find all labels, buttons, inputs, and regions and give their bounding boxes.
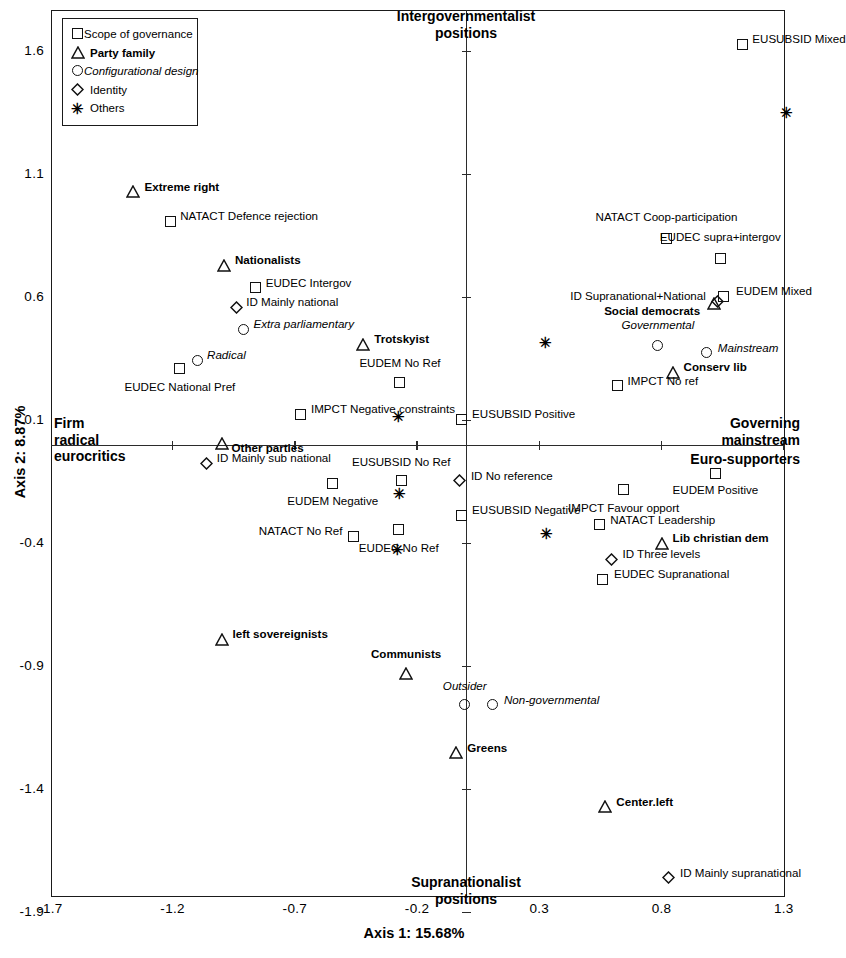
square-marker-icon — [594, 519, 605, 530]
data-point-label: Conserv lib — [684, 360, 747, 373]
data-point-label: Outsider — [443, 679, 487, 692]
square-marker-icon — [737, 39, 748, 50]
x-tick-label: 1.3 — [754, 901, 814, 916]
square-marker-icon — [612, 380, 623, 391]
y-tick-mark — [462, 51, 471, 52]
data-point-label: NATACT Coop-participation — [596, 210, 738, 223]
data-point-label: NATACT Leadership — [610, 513, 715, 526]
pole-left-line-2: radical — [54, 432, 144, 449]
data-point-label: Extra parliamentary — [254, 317, 355, 330]
legend-marker-holder — [71, 28, 84, 41]
asterisk-marker-icon: ✳ — [70, 100, 86, 118]
triangle-marker-icon — [71, 46, 85, 59]
pole-label-top: Intergovernmentalistpositions — [366, 8, 566, 41]
x-tick-label: -1.2 — [143, 901, 203, 916]
data-point-label: ID Supranational+National — [570, 289, 706, 302]
data-point-label: EUDEM Negative — [287, 494, 378, 507]
x-tick-label: -0.7 — [265, 901, 325, 916]
data-point-label: ID Three levels — [622, 547, 700, 560]
triangle-marker-icon — [598, 800, 612, 813]
square-marker-icon — [456, 414, 467, 425]
y-tick-label: 0.6 — [0, 289, 44, 304]
horizontal-axis-line — [51, 445, 785, 446]
legend: Scope of governanceParty familyConfigura… — [62, 18, 198, 126]
square-marker-icon — [715, 253, 726, 264]
square-marker-icon — [165, 216, 176, 227]
legend-label: Scope of governance — [84, 28, 193, 40]
diamond-marker-icon — [662, 871, 675, 884]
data-point-label: NATACT Defence rejection — [180, 209, 318, 222]
x-tick-mark — [172, 441, 173, 450]
asterisk-marker-icon: ✳ — [537, 334, 553, 352]
data-point-label: EUSUBSID No Ref — [352, 455, 451, 468]
data-point-label: Greens — [467, 741, 507, 754]
legend-marker — [71, 65, 84, 78]
data-point-label: ID Mainly supranational — [680, 866, 801, 879]
y-tick-mark — [462, 912, 471, 913]
data-point-label: Lib christian dem — [673, 531, 769, 544]
data-point-label: IMPCT No ref — [628, 374, 699, 387]
pole-left-line-3: eurocritics — [54, 448, 144, 465]
data-point-label: EUDEC Supranational — [614, 567, 729, 580]
pole-left-line-1: Firm — [54, 415, 144, 432]
triangle-marker-icon — [215, 437, 229, 450]
legend-marker: ✳ — [71, 102, 90, 115]
data-point-label: EUDEC supra+intergov — [660, 230, 781, 243]
diamond-marker-icon — [71, 83, 84, 96]
asterisk-marker-icon: ✳ — [539, 525, 555, 543]
square-marker-icon — [456, 510, 467, 521]
asterisk-marker-icon: ✳ — [778, 104, 794, 122]
y-tick-mark — [462, 174, 471, 175]
legend-item-diamond: Identity — [71, 81, 189, 100]
legend-marker — [71, 83, 90, 96]
legend-label: Identity — [90, 84, 127, 96]
x-tick-mark — [416, 441, 417, 450]
data-point-label: ID Mainly sub national — [217, 451, 331, 464]
y-tick-label: 1.1 — [0, 166, 44, 181]
x-axis-title: Axis 1: 15.68% — [0, 925, 828, 941]
x-tick-mark — [539, 441, 540, 450]
asterisk-marker-icon: ✳ — [390, 541, 406, 559]
triangle-marker-icon — [449, 746, 463, 759]
legend-marker-holder — [71, 46, 84, 59]
data-point-label: EUDEC Intergov — [266, 276, 352, 289]
legend-marker — [71, 28, 84, 41]
data-point-label: Nationalists — [235, 253, 301, 266]
x-tick-mark — [661, 441, 662, 450]
y-tick-mark — [462, 543, 471, 544]
triangle-marker-icon — [399, 667, 413, 680]
legend-marker-holder — [71, 65, 84, 78]
asterisk-marker-icon: ✳ — [392, 485, 408, 503]
data-point-label: Trotskyist — [374, 332, 429, 345]
data-point-label: Mainstream — [718, 341, 779, 354]
pole-label-left: Firmradicaleurocritics — [54, 415, 144, 465]
data-point-label: EUSUBSID Negative — [472, 503, 580, 516]
y-tick-mark — [462, 789, 471, 790]
legend-label: Party family — [90, 47, 155, 59]
square-marker-icon — [174, 363, 185, 374]
y-tick-mark — [462, 297, 471, 298]
data-point-label: Governmental — [622, 318, 695, 331]
square-marker-icon — [710, 468, 721, 479]
pole-top-line-1: Intergovernmentalist — [366, 8, 566, 25]
square-marker-icon — [618, 484, 629, 495]
data-point-label: EUDEM No Ref — [359, 356, 440, 369]
data-point-label: NATACT No Ref — [259, 524, 343, 537]
pole-bottom-line-2: positions — [366, 891, 566, 908]
circle-marker-icon — [192, 355, 203, 366]
y-axis-title: Axis 2: 8.87% — [12, 387, 28, 517]
pole-label-right: Governingmainstream — [700, 415, 800, 448]
square-marker-icon — [72, 28, 83, 39]
square-marker-icon — [348, 531, 359, 542]
square-marker-icon — [394, 377, 405, 388]
y-tick-label: 1.6 — [0, 43, 44, 58]
data-point-label: EUDEC National Pref — [125, 380, 236, 393]
legend-label: Others — [90, 102, 125, 114]
legend-label: Configurational design — [84, 65, 198, 77]
triangle-marker-icon — [126, 185, 140, 198]
x-tick-label: -1.7 — [20, 901, 80, 916]
square-marker-icon — [327, 478, 338, 489]
data-point-label: ID Mainly national — [246, 295, 338, 308]
square-marker-icon — [250, 282, 261, 293]
